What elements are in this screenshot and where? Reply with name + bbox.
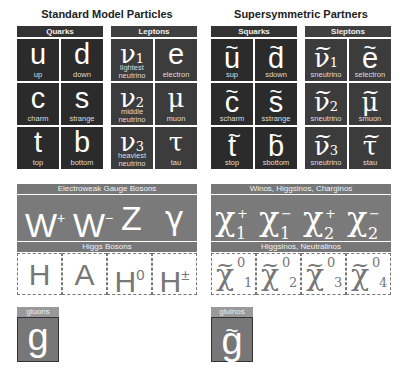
chargino-1-minus: χ−1 — [259, 200, 280, 236]
squark-top: tstop — [211, 127, 253, 169]
quark-down: ddown — [61, 39, 103, 81]
name-line2: neutrino — [118, 71, 145, 80]
particle-superscript: ± — [181, 266, 189, 283]
particle-name: stop — [211, 159, 253, 167]
particle-name: stau — [349, 159, 391, 167]
particle-symbol: χ — [215, 198, 236, 238]
particle-symbol: μ — [362, 87, 379, 117]
particle-symbol: ν — [314, 131, 330, 161]
name-line2: neutrino — [118, 159, 145, 168]
quarks-header: Quarks — [17, 26, 103, 37]
particle-symbol: γ — [165, 199, 184, 237]
particle-symbol: χ — [259, 198, 280, 238]
particle-name: lightestneutrino — [111, 64, 153, 80]
particle-symbol: ν — [314, 87, 330, 117]
particle-name: smuon — [349, 115, 391, 123]
particle-symbol: μ — [155, 83, 197, 113]
particle-symbol: c — [225, 87, 240, 117]
quark-top: ttop — [17, 127, 59, 169]
particle-name: tau — [155, 159, 197, 167]
squark-up: usup — [211, 39, 253, 81]
particle-symbol: χ — [351, 254, 369, 296]
particle-symbol: d — [61, 39, 103, 69]
lepton-electron: eelectron — [155, 39, 197, 81]
particle-name: heaviestneutrino — [111, 152, 153, 168]
particle-name: top — [17, 159, 59, 167]
particle-name: bottom — [61, 159, 103, 167]
particle-name: strange — [61, 115, 103, 123]
w-plus-boson: W+ — [25, 200, 65, 243]
particle-symbol: e — [155, 39, 197, 69]
particle-symbol: τ — [363, 131, 377, 161]
particle-symbol: t — [228, 131, 236, 161]
supersymmetric-title: Supersymmetric Partners — [211, 8, 391, 20]
particle-name: sbottom — [255, 159, 297, 167]
lepton-tau: τtau — [155, 127, 197, 169]
lepton-nu3: ν3heaviestneutrino — [111, 127, 153, 169]
particle-symbol: t — [17, 127, 59, 157]
leptons-header: Leptons — [111, 26, 197, 37]
particle-subscript: 2 — [289, 262, 297, 304]
gluino-box: g — [211, 317, 253, 362]
higgs-h-pm: H± — [152, 253, 197, 295]
particle-name: electron — [155, 71, 197, 79]
particle-subscript: 1 — [244, 262, 252, 304]
sleptons-header: Sleptons — [305, 26, 391, 37]
higgs-h0: H0 — [107, 253, 152, 295]
squark-down: dsdown — [255, 39, 297, 81]
squark-charm: cscharm — [211, 83, 253, 125]
particle-symbol: g — [221, 322, 242, 360]
particle-symbol: A — [74, 258, 94, 291]
neutralino-3: χ03 — [301, 253, 346, 295]
gauge-bosons-box: W+ W− Z γ — [17, 195, 197, 241]
squark-strange: ssstrange — [255, 83, 297, 125]
particle-symbol: e — [362, 43, 378, 73]
gauge-bosons-header: Electroweak Gauge Bosons — [17, 184, 197, 194]
slepton-tau: τstau — [349, 127, 391, 169]
particle-symbol: b — [61, 127, 103, 157]
quark-bottom: bbottom — [61, 127, 103, 169]
standard-model-title: Standard Model Particles — [17, 8, 197, 20]
charginos-box: χ+1 χ−1 χ+2 χ−2 — [211, 195, 391, 241]
particle-symbol: χ — [306, 254, 324, 296]
chargino-1-plus: χ+1 — [215, 200, 236, 236]
neutralino-4: χ04 — [346, 253, 391, 295]
particle-symbol: τ — [155, 127, 197, 157]
particle-symbol: W — [73, 206, 105, 244]
squarks-header: Squarks — [211, 26, 297, 37]
w-minus-boson: W− — [73, 200, 113, 243]
chargino-2-minus: χ−2 — [347, 200, 368, 236]
slepton-muon: μsmuon — [349, 83, 391, 125]
z-boson: Z — [121, 200, 142, 236]
neutralino-1: χ01 — [211, 253, 256, 295]
particle-symbol: H — [114, 265, 136, 298]
particle-name: sneutrino — [305, 71, 347, 79]
particle-superscript: + — [57, 210, 65, 226]
gluon-box: g — [17, 317, 59, 362]
particle-subscript: 4 — [379, 262, 387, 304]
lepton-muon: μmuon — [155, 83, 197, 125]
particle-symbol: W — [25, 206, 57, 244]
particle-name: sup — [211, 71, 253, 79]
particle-symbol: χ — [347, 198, 368, 238]
particle-symbol: u — [224, 43, 240, 73]
particle-symbol: c — [17, 83, 59, 113]
neutralino-2: χ02 — [256, 253, 301, 295]
lepton-nu1: ν1lightestneutrino — [111, 39, 153, 81]
particle-superscript: 0 — [136, 266, 144, 283]
particle-symbol: Z — [121, 199, 142, 237]
particle-superscript: − — [105, 210, 113, 226]
particle-symbol: H — [29, 258, 51, 291]
quark-up: uup — [17, 39, 59, 81]
squark-bottom: bsbottom — [255, 127, 297, 169]
slepton-nu2: ν2sneutrino — [305, 83, 347, 125]
particle-name: sneutrino — [305, 159, 347, 167]
particle-subscript: 3 — [334, 262, 342, 304]
higgs-bosons-header: Higgs Bosons — [17, 242, 197, 252]
particle-name: down — [61, 71, 103, 79]
slepton-electron: eselectron — [349, 39, 391, 81]
higgs-h: H — [17, 253, 62, 295]
quark-charm: ccharm — [17, 83, 59, 125]
particle-symbol: u — [17, 39, 59, 69]
particle-name: scharm — [211, 115, 253, 123]
